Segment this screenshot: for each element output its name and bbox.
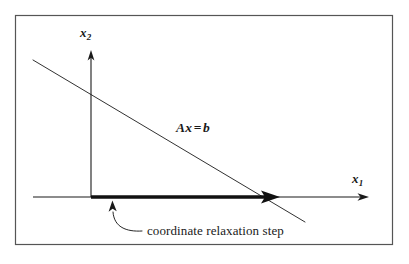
y-axis-label-base: x: [80, 25, 87, 40]
figure-container: x2 x1 Ax=b coordinate relaxation step: [0, 0, 409, 264]
annotation-caption: coordinate relaxation step: [147, 224, 284, 237]
constraint-label-rhs: b: [203, 120, 210, 135]
y-axis-label-subscript: 2: [87, 32, 92, 42]
x-axis-label-subscript: 1: [359, 178, 364, 188]
x-axis-label: x1: [352, 172, 363, 188]
constraint-label-operator: =: [192, 120, 203, 135]
x-axis-label-base: x: [352, 171, 359, 186]
constraint-label-lhs: Ax: [176, 120, 192, 135]
y-axis-label: x2: [80, 26, 91, 42]
constraint-line-label: Ax=b: [176, 121, 210, 135]
